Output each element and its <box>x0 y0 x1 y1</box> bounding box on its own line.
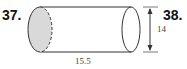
cylinder-right-face <box>122 7 140 52</box>
length-label: 15.5 <box>75 57 91 66</box>
cylinder-diagram <box>0 0 187 69</box>
arrowhead-up-icon <box>148 8 153 14</box>
arrowhead-down-icon <box>148 45 153 51</box>
diameter-label: 14 <box>157 25 166 34</box>
